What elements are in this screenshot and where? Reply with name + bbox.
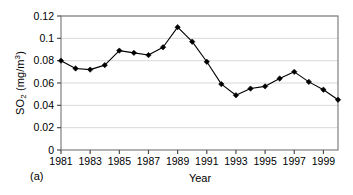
x-tick-label: 1997 [283, 155, 307, 167]
x-tick-label: 1995 [253, 155, 277, 167]
y-tick-label: 0.06 [34, 77, 55, 89]
data-point-marker [73, 66, 78, 71]
data-point-marker [146, 52, 151, 57]
x-axis-tick-labels: 1981198319851987198919911993199519971999 [49, 155, 335, 167]
x-tick-label: 1985 [108, 155, 132, 167]
y-tick-label: 0.08 [34, 54, 55, 66]
x-tick-label: 1987 [137, 155, 161, 167]
x-tick-label: 1999 [312, 155, 336, 167]
chart-page: SO2 (mg/m3) 00.020.040.060.080.10.12 198… [0, 0, 353, 195]
so2-line-chart: 00.020.040.060.080.10.12 198119831985198… [0, 0, 353, 195]
x-axis-ticks [61, 150, 323, 154]
data-point-marker [87, 67, 92, 72]
data-point-marker [277, 76, 282, 81]
data-point-marker [131, 50, 136, 55]
x-tick-label: 1981 [49, 155, 73, 167]
x-tick-label: 1993 [224, 155, 248, 167]
data-point-markers [58, 24, 340, 102]
y-tick-label: 0 [48, 144, 54, 156]
y-axis-tick-labels: 00.020.040.060.080.10.12 [34, 10, 55, 156]
y-tick-label: 0.04 [34, 99, 55, 111]
x-tick-label: 1991 [195, 155, 219, 167]
x-axis-label: Year [60, 172, 340, 184]
x-tick-label: 1983 [78, 155, 102, 167]
data-point-marker [248, 86, 253, 91]
y-tick-label: 0.1 [39, 32, 54, 44]
y-tick-label: 0.02 [34, 121, 55, 133]
data-point-marker [58, 58, 63, 63]
x-tick-label: 1989 [166, 155, 190, 167]
y-tick-label: 0.12 [34, 10, 55, 22]
data-point-marker [262, 84, 267, 89]
panel-label: (a) [30, 170, 43, 182]
